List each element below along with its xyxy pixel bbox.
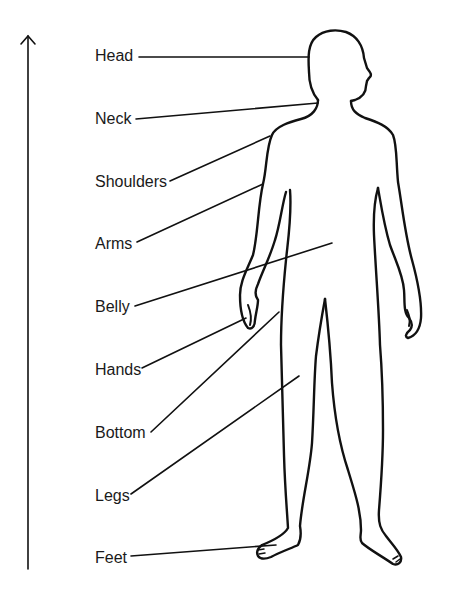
- label-head: Head: [95, 47, 133, 65]
- leader-shoulders: [170, 136, 270, 181]
- vertical-arrow: [21, 36, 35, 569]
- label-neck: Neck: [95, 110, 131, 128]
- label-hands: Hands: [95, 361, 141, 379]
- leader-arms: [137, 184, 263, 242]
- leader-belly: [135, 243, 332, 306]
- label-belly: Belly: [95, 298, 130, 316]
- left-foot-toes: [258, 549, 265, 554]
- torso-left-outline: [240, 100, 318, 329]
- label-legs: Legs: [95, 487, 130, 505]
- label-arms: Arms: [95, 235, 132, 253]
- body-parts-diagram: [0, 0, 469, 598]
- leader-feet: [131, 545, 276, 556]
- label-bottom: Bottom: [95, 424, 146, 442]
- leader-bottom: [151, 312, 279, 432]
- right-foot-toes: [393, 556, 400, 562]
- torso-right-outline: [351, 101, 421, 338]
- torso-left-inner: [257, 190, 325, 559]
- leader-legs: [131, 376, 299, 494]
- label-feet: Feet: [95, 549, 127, 567]
- head-outline: [309, 30, 371, 101]
- left-hand-detail: [248, 305, 251, 325]
- label-shoulders: Shoulders: [95, 173, 167, 191]
- human-body-outline: [240, 30, 421, 564]
- leader-lines: [131, 57, 332, 556]
- leader-hands: [142, 318, 246, 368]
- leader-neck: [136, 103, 318, 119]
